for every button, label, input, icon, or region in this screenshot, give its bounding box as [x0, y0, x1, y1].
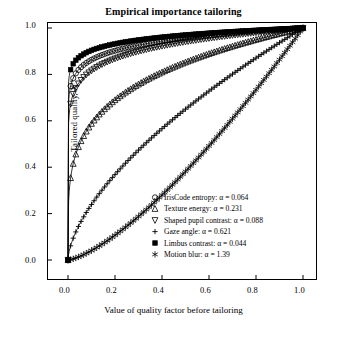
- legend-label-2: Shaped pupil contrast: α = 0.088: [164, 216, 263, 225]
- y-axis-label-text: Tailored quality, X: [69, 84, 79, 152]
- y-axis-label-superscript: tr: [67, 80, 75, 84]
- legend-label-1: Texture energy: α = 0.231: [164, 204, 243, 213]
- plot-svg: IrisCode entropy: α = 0.064Texture energ…: [47, 22, 317, 280]
- ytick-label-1: 0.2: [25, 208, 36, 218]
- xtick-label-3: 0.6: [200, 285, 211, 295]
- ytick-label-4: 0.8: [25, 67, 36, 77]
- data-marker-square-filled: [153, 241, 158, 246]
- xtick-label-4: 0.8: [247, 285, 258, 295]
- xtick-label-0: 0.0: [59, 285, 70, 295]
- legend-label-0: IrisCode entropy: α = 0.064: [164, 193, 249, 202]
- legend-label-3: Gaze angle: α = 0.621: [164, 227, 231, 236]
- legend-label-4: Limbus contrast: α = 0.044: [164, 239, 246, 248]
- plot-area: IrisCode entropy: α = 0.064Texture energ…: [47, 22, 317, 280]
- x-axis-label: Value of quality factor before tailoring: [0, 305, 347, 315]
- xtick-label-5: 1.0: [294, 285, 305, 295]
- chart-title: Empirical importance tailoring: [0, 6, 347, 17]
- ytick-label-5: 1.0: [25, 20, 36, 30]
- xtick-label-2: 0.4: [153, 285, 164, 295]
- legend-label-5: Motion blur: α = 1.39: [164, 250, 230, 259]
- chart-figure: Empirical importance tailoring IrisCode …: [0, 0, 347, 351]
- ytick-label-0: 0.0: [25, 255, 36, 265]
- ytick-label-3: 0.6: [25, 114, 36, 124]
- xtick-label-1: 0.2: [106, 285, 117, 295]
- ytick-label-2: 0.4: [25, 161, 36, 171]
- y-axis-label: Tailored quality, Xtr: [67, 46, 79, 186]
